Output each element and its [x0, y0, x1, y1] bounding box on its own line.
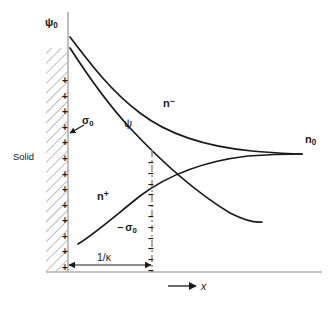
- surface-charge-plus: +: [62, 138, 68, 148]
- psi-zero-subscript: 0: [53, 21, 58, 30]
- surface-charge-plus: +: [62, 76, 68, 86]
- n-plus-superscript: +: [104, 189, 109, 199]
- minus-sigma-prefix: −: [117, 221, 125, 233]
- n-bulk-symbol: n: [305, 133, 312, 145]
- counter-charge-minus: –: [148, 255, 154, 265]
- counter-charge-minus: –: [148, 190, 154, 200]
- x-axis-label: x: [201, 281, 206, 292]
- surface-charge-plus: +: [62, 201, 68, 211]
- surface-charge-plus: +: [62, 216, 68, 226]
- counter-charge-minus: –: [148, 180, 154, 190]
- n-minus-symbol: n: [163, 97, 170, 109]
- n-plus-symbol: n: [97, 190, 104, 202]
- counter-charge-minus: –: [148, 234, 154, 244]
- counter-charge-minus: –: [148, 244, 154, 254]
- surface-charge-plus: +: [62, 247, 68, 257]
- surface-charge-plus: +: [62, 232, 68, 242]
- surface-charge-plus: +: [62, 263, 68, 273]
- psi-curve-label: ψ: [124, 118, 132, 130]
- counter-charge-minus: –: [148, 158, 154, 168]
- surface-potential-label: ψ0: [45, 17, 58, 30]
- surface-charge-plus: +: [62, 185, 68, 195]
- counter-charge-minus: –: [148, 201, 154, 211]
- n-minus-superscript: −: [170, 96, 175, 106]
- curve-n-plus: [78, 154, 302, 244]
- counter-charge-minus: –: [148, 223, 154, 233]
- surface-charge-plus: +: [62, 154, 68, 164]
- curve-n-minus: [70, 37, 302, 154]
- counter-charge-density-label: − σ0: [117, 222, 137, 234]
- double-layer-figure: +++++++++++++ ––––––––––– Solid ψ0 ψ n− …: [0, 0, 336, 309]
- minus-sigma-subscript: 0: [132, 226, 136, 235]
- surface-charge-plus: +: [62, 92, 68, 102]
- bulk-concentration-label: n0: [305, 134, 316, 147]
- n-plus-curve-label: n+: [97, 190, 109, 202]
- counter-charge-minus: –: [148, 169, 154, 179]
- counter-charge-minus: –: [148, 266, 154, 276]
- figure-canvas: [0, 0, 336, 309]
- n-bulk-subscript: 0: [312, 138, 317, 147]
- counter-charge-minus: –: [148, 212, 154, 222]
- surface-charge-plus: +: [62, 170, 68, 180]
- surface-charge-plus: +: [62, 123, 68, 133]
- n-minus-curve-label: n−: [163, 97, 175, 109]
- solid-label: Solid: [13, 152, 34, 162]
- surface-charge-plus: +: [62, 107, 68, 117]
- sigma-zero-subscript: 0: [89, 119, 93, 128]
- debye-length-label: 1/κ: [97, 252, 111, 263]
- surface-charge-density-label: σ0: [82, 115, 94, 127]
